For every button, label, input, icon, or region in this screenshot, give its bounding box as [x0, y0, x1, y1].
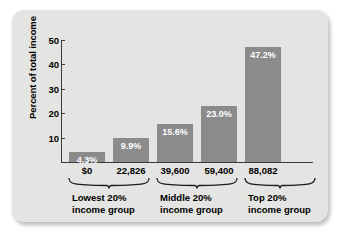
brace-top	[243, 178, 317, 189]
bar-label-4: 47.2%	[245, 50, 281, 60]
group-label-top: Top 20% income group	[248, 192, 311, 216]
bar-0: 4.3%	[69, 152, 105, 163]
brace-lowest	[67, 178, 151, 189]
y-tick-label-10: 10	[37, 134, 59, 144]
group-label-lowest: Lowest 20% income group	[72, 192, 135, 216]
bar-label-0: 4.3%	[69, 155, 105, 165]
bar-3: 23.0%	[201, 106, 237, 162]
bar-label-3: 23.0%	[201, 109, 237, 119]
group-label-lowest-line1: Lowest 20%	[72, 192, 135, 204]
x-tick-label-0: $0	[69, 165, 105, 176]
group-label-top-line2: income group	[248, 204, 311, 216]
y-tick-mark-50	[61, 40, 65, 41]
group-label-lowest-line2: income group	[72, 204, 135, 216]
group-label-middle-line2: income group	[160, 204, 223, 216]
y-axis-line	[61, 40, 62, 163]
x-tick-label-3: 59,400	[199, 165, 239, 176]
bar-label-2: 15.6%	[157, 127, 193, 137]
x-tick-label-1: 22,826	[111, 165, 151, 176]
y-tick-label-50: 50	[37, 36, 59, 46]
y-tick-mark-40	[61, 64, 65, 65]
chart-panel: Percent of total income 50 40 30 20 10 4…	[12, 10, 328, 222]
x-tick-label-2: 39,600	[155, 165, 195, 176]
y-tick-label-20: 20	[37, 109, 59, 119]
brace-middle	[155, 178, 239, 189]
group-label-middle-line1: Middle 20%	[160, 192, 223, 204]
group-label-middle: Middle 20% income group	[160, 192, 223, 216]
bar-4: 47.2%	[245, 47, 281, 162]
y-tick-mark-30	[61, 89, 65, 90]
y-tick-label-40: 40	[37, 60, 59, 70]
bar-1: 9.9%	[113, 138, 149, 162]
plot-area: 50 40 30 20 10 4.3% 9.9% 15.6% 23.0% 47.…	[12, 10, 328, 222]
bar-label-1: 9.9%	[113, 141, 149, 151]
y-tick-mark-20	[61, 113, 65, 114]
bar-2: 15.6%	[157, 124, 193, 162]
y-tick-label-30: 30	[37, 85, 59, 95]
y-tick-mark-10	[61, 138, 65, 139]
x-tick-label-4: 88,082	[243, 165, 283, 176]
group-label-top-line1: Top 20%	[248, 192, 311, 204]
